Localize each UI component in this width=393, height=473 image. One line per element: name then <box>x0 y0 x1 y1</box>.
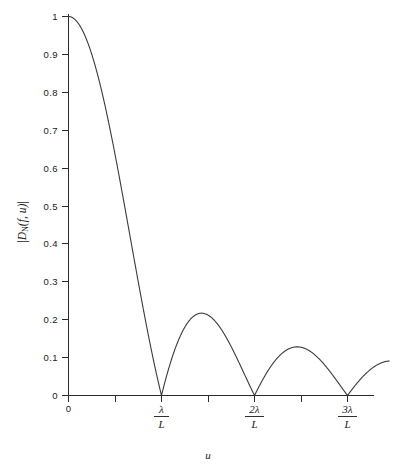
fraction-denominator: L <box>250 418 257 430</box>
y-tick-label-0_3: 0.3 <box>44 276 58 287</box>
y-tick-label-0_8: 0.8 <box>44 87 58 98</box>
y-title-args: (f, u) <box>16 204 29 227</box>
fraction-numerator: 2λ <box>249 403 260 415</box>
chart-background <box>0 0 393 473</box>
y-tick-label-0: 0 <box>52 390 58 401</box>
figure-container: 1 0.9 0.8 0.7 0.6 0.5 0.4 0.3 0.2 0.1 0 … <box>0 0 393 473</box>
fraction-denominator: L <box>157 418 164 430</box>
chart-svg: 1 0.9 0.8 0.7 0.6 0.5 0.4 0.3 0.2 0.1 0 … <box>0 0 393 473</box>
fraction-numerator: λ <box>158 403 164 415</box>
y-tick-label-0_1: 0.1 <box>44 352 58 363</box>
fraction-denominator: L <box>343 418 350 430</box>
y-tick-label-0_4: 0.4 <box>44 238 58 249</box>
fraction-numerator: 3λ <box>341 403 353 415</box>
y-tick-label-0_7: 0.7 <box>44 125 58 136</box>
x-axis-title: u <box>205 449 211 461</box>
y-tick-label-1: 1 <box>52 11 58 22</box>
y-tick-label-0_9: 0.9 <box>44 49 58 60</box>
y-title-bar-close: | <box>16 201 29 203</box>
y-tick-label-0_5: 0.5 <box>44 201 58 212</box>
y-tick-label-0_2: 0.2 <box>44 314 58 325</box>
x-tick-label-0: 0 <box>66 403 71 414</box>
y-tick-label-0_6: 0.6 <box>44 163 58 174</box>
